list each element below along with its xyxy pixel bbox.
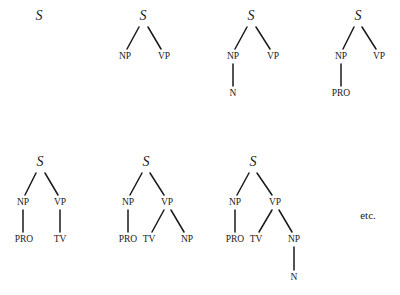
tree-edge [259, 210, 272, 232]
node-pro: PRO [119, 234, 138, 244]
node-vp: VP [373, 51, 385, 61]
node-n: N [230, 88, 237, 98]
tree-edge [256, 27, 270, 49]
node-s: S [140, 8, 147, 23]
tree-4: SNPVPPRO [332, 8, 385, 98]
node-np: NP [229, 197, 241, 207]
node-tv: TV [250, 234, 263, 244]
node-vp: VP [54, 197, 66, 207]
node-n: N [291, 272, 298, 282]
node-s: S [355, 8, 362, 23]
tree-edge [152, 210, 164, 232]
trees-layer: SSNPVPSNPVPNSNPVPPROSNPVPPROTVSNPVPPROTV… [15, 8, 385, 282]
node-s: S [36, 8, 43, 23]
tree-edge [150, 173, 164, 195]
tree-edge [279, 210, 292, 232]
tree-edge [237, 173, 249, 195]
node-vp: VP [161, 197, 173, 207]
tree-edge [343, 27, 354, 49]
node-vp: VP [158, 51, 170, 61]
tree-7: SNPVPPROTVNPN [226, 154, 300, 282]
node-tv: TV [143, 234, 156, 244]
node-np: NP [227, 51, 239, 61]
tree-edge [25, 173, 36, 195]
tree-edge [148, 27, 161, 49]
node-np: NP [181, 234, 193, 244]
node-pro: PRO [15, 234, 34, 244]
node-s: S [37, 154, 44, 169]
node-np: NP [288, 234, 300, 244]
tree-edge [127, 27, 139, 49]
tree-edge [130, 173, 142, 195]
node-tv: TV [54, 234, 67, 244]
tree-5: SNPVPPROTV [15, 154, 67, 244]
tree-edge [171, 210, 184, 232]
phrase-structure-tree-diagram: SSNPVPSNPVPNSNPVPPROSNPVPPROTVSNPVPPROTV… [0, 0, 400, 295]
tree-3: SNPVPN [227, 8, 279, 98]
tree-edge [257, 173, 272, 195]
node-s: S [250, 154, 257, 169]
tree-edge [45, 173, 58, 195]
node-vp: VP [269, 197, 281, 207]
node-pro: PRO [332, 88, 351, 98]
node-np: NP [17, 197, 29, 207]
node-np: NP [335, 51, 347, 61]
tree-1: S [36, 8, 43, 23]
node-pro: PRO [226, 234, 245, 244]
node-np: NP [122, 197, 134, 207]
tree-edge [235, 27, 247, 49]
node-np: NP [119, 51, 131, 61]
node-s: S [143, 154, 150, 169]
tree-6: SNPVPPROTVNP [119, 154, 193, 244]
continuation-label: etc. [360, 209, 376, 221]
tree-2: SNPVP [119, 8, 170, 61]
tree-edge [362, 27, 376, 49]
node-s: S [248, 8, 255, 23]
node-vp: VP [267, 51, 279, 61]
